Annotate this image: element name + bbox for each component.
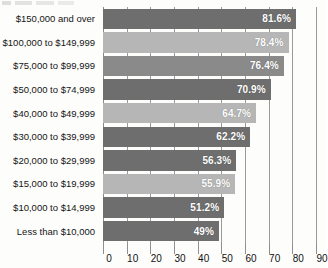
bar-value-label: 70.9%: [237, 84, 266, 95]
bar[interactable]: 81.6%: [103, 9, 296, 29]
bar-row[interactable]: 78.4%: [103, 32, 316, 52]
bar-value-label: 81.6%: [262, 13, 291, 24]
category-label: $20,000 to $29,999: [0, 149, 99, 173]
bar[interactable]: 76.4%: [103, 56, 284, 76]
axis-tick-0: [103, 243, 104, 254]
bar[interactable]: 56.3%: [103, 150, 236, 170]
bar-row[interactable]: 81.6%: [103, 9, 316, 29]
axis-tick-label-60: 60: [245, 253, 256, 264]
bar-value-label: 55.9%: [201, 178, 230, 189]
bar-value-label: 62.2%: [216, 131, 245, 142]
axis-tick-label-10: 10: [127, 253, 138, 264]
category-label: Less than $10,000: [0, 219, 99, 243]
bar[interactable]: 70.9%: [103, 79, 271, 99]
category-label: $10,000 to $14,999: [0, 196, 99, 220]
axis-tick-label-40: 40: [198, 253, 209, 264]
category-label: $100,000 to $149,999: [0, 31, 99, 55]
bar-row[interactable]: 76.4%: [103, 56, 316, 76]
bar[interactable]: 49%: [103, 221, 219, 241]
bar-value-label: 76.4%: [250, 60, 279, 71]
category-label: $15,000 to $19,999: [0, 172, 99, 196]
axis-tick-label-70: 70: [269, 253, 280, 264]
gridline-90: [316, 7, 317, 243]
axis-tick-label-20: 20: [151, 253, 162, 264]
axis-tick-label-50: 50: [222, 253, 233, 264]
category-label: $150,000 and over: [0, 7, 99, 31]
bar[interactable]: 62.2%: [103, 127, 250, 147]
category-axis-labels: $150,000 and over$100,000 to $149,999$75…: [0, 7, 99, 243]
category-label: $50,000 to $74,999: [0, 78, 99, 102]
axis-tick-label-0: 0: [106, 253, 112, 264]
value-axis: 0102030405060708090: [103, 243, 316, 268]
bar[interactable]: 64.7%: [103, 103, 256, 123]
bar-value-label: 64.7%: [222, 108, 251, 119]
bar[interactable]: 51.2%: [103, 197, 224, 217]
bar[interactable]: 78.4%: [103, 32, 289, 52]
bar[interactable]: 55.9%: [103, 174, 235, 194]
category-label: $75,000 to $99,999: [0, 54, 99, 78]
bar-row[interactable]: 49%: [103, 221, 316, 241]
bar-value-label: 51.2%: [190, 202, 219, 213]
bar-series: 81.6%78.4%76.4%70.9%64.7%62.2%56.3%55.9%…: [103, 7, 316, 243]
bar-value-label: 49%: [194, 226, 214, 237]
bar-value-label: 78.4%: [255, 37, 284, 48]
bar-row[interactable]: 55.9%: [103, 174, 316, 194]
bar-row[interactable]: 70.9%: [103, 79, 316, 99]
bar-row[interactable]: 64.7%: [103, 103, 316, 123]
bar-row[interactable]: 56.3%: [103, 150, 316, 170]
bar-row[interactable]: 51.2%: [103, 197, 316, 217]
axis-tick-label-80: 80: [293, 253, 304, 264]
category-label: $30,000 to $39,999: [0, 125, 99, 149]
bar-value-label: 56.3%: [202, 155, 231, 166]
axis-tick-label-30: 30: [174, 253, 185, 264]
axis-tick-label-90: 90: [316, 253, 327, 264]
category-label: $40,000 to $49,999: [0, 101, 99, 125]
plot-area: 81.6%78.4%76.4%70.9%64.7%62.2%56.3%55.9%…: [103, 7, 316, 243]
bar-row[interactable]: 62.2%: [103, 127, 316, 147]
scan-artifact: [2, 1, 80, 5]
